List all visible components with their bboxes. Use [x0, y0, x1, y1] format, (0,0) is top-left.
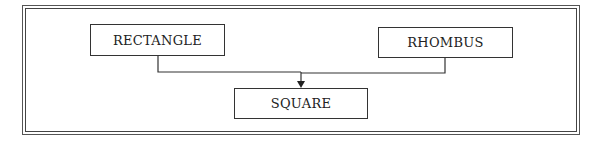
connector-rectangle — [158, 56, 301, 72]
connector-rhombus — [301, 58, 445, 73]
node-label: RECTANGLE — [113, 33, 202, 48]
node-label: SQUARE — [271, 96, 332, 111]
node-label: RHOMBUS — [407, 35, 484, 50]
node-square: SQUARE — [234, 88, 368, 119]
connectors — [0, 0, 601, 145]
node-rhombus: RHOMBUS — [378, 27, 513, 58]
node-rectangle: RECTANGLE — [90, 24, 225, 56]
arrowhead-icon — [297, 81, 305, 88]
